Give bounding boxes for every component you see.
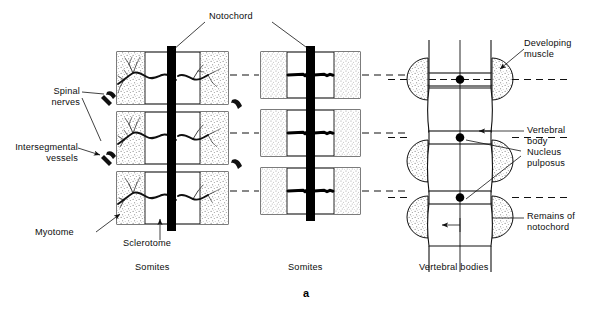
panel-middle-somites <box>261 46 360 221</box>
label-notochord: Notochord <box>209 11 253 22</box>
notochord-bar-left <box>167 46 176 231</box>
label-vertebral-body: Vertebral body <box>527 125 565 147</box>
figure-letter: a <box>303 287 309 299</box>
caption-left-panel: Somites <box>135 262 170 272</box>
notochord-arrowheads <box>166 44 180 56</box>
panel-left-somites <box>78 46 242 240</box>
label-intersegmental-vessels: Intersegmental vessels <box>0 142 78 164</box>
caption-right-panel: Vertebral bodies <box>419 262 489 272</box>
label-sclerotome: Sclerotome <box>123 238 171 249</box>
label-nucleus-pulposus: Nucleus pulposus <box>527 147 565 169</box>
intersegmental-vessel-glyph <box>231 99 242 169</box>
label-spinal-nerves: Spinal nerves <box>16 86 80 108</box>
notochord-bar-middle <box>306 46 315 221</box>
notochord-leaders <box>173 22 310 50</box>
spinal-nerve-glyph <box>101 91 116 166</box>
panel-right-vertebral-bodies <box>407 40 524 272</box>
caption-middle-panel: Somites <box>288 262 323 272</box>
label-myotome: Myotome <box>35 227 74 238</box>
label-remains-of-notochord: Remains of notochord <box>527 211 575 233</box>
label-developing-muscle: Developing muscle <box>524 38 571 60</box>
figure-vertebral-development: Notochord Spinal nerves Intersegmental v… <box>0 0 612 310</box>
